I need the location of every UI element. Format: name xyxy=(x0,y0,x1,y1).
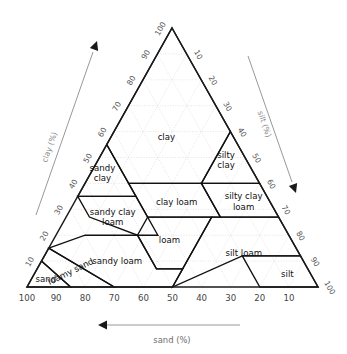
silt-tick-20: 20 xyxy=(207,74,220,87)
clay-tick-10: 10 xyxy=(24,255,37,268)
clay-axis-arrow-head xyxy=(90,40,101,51)
sand-tick-70: 70 xyxy=(109,293,120,303)
sand-tick-50: 50 xyxy=(167,293,178,303)
silt-tick-50: 50 xyxy=(250,152,263,165)
clay-tick-20: 20 xyxy=(38,229,51,242)
sand-tick-30: 30 xyxy=(225,293,236,303)
clay-tick-80: 80 xyxy=(125,74,138,87)
clay-tick-40: 40 xyxy=(67,178,80,191)
class-label-silt: silt xyxy=(281,269,294,279)
silt-tick-90: 90 xyxy=(309,255,322,268)
silt-tick-80: 80 xyxy=(294,230,307,243)
class-label-silty-clay: siltyclay xyxy=(217,150,235,170)
class-label-silt-loam: silt loam xyxy=(225,248,262,258)
clay-tick-60: 60 xyxy=(96,126,109,139)
clay-tick-70: 70 xyxy=(111,100,124,113)
class-label-clay-loam: clay loam xyxy=(156,197,197,207)
ternary-diagram-svg: 1020304050607080901001020304050607080901… xyxy=(0,0,347,354)
silt-tick-40: 40 xyxy=(236,126,249,139)
silt-axis-arrow-head xyxy=(289,183,300,194)
sand-tick-90: 90 xyxy=(51,293,62,303)
clay-tick-100: 100 xyxy=(153,20,168,37)
silt-tick-10: 10 xyxy=(192,48,205,61)
sand-tick-10: 10 xyxy=(283,293,294,303)
class-region-fills xyxy=(27,28,318,287)
clay-axis-title: clay (%) xyxy=(40,131,59,164)
clay-tick-90: 90 xyxy=(140,48,153,61)
class-label-sandy-loam: sandy loam xyxy=(92,256,142,266)
sand-tick-80: 80 xyxy=(80,293,91,303)
class-label-sand: sand xyxy=(36,274,57,284)
class-region-clay xyxy=(107,28,231,183)
sand-tick-40: 40 xyxy=(196,293,207,303)
silt-tick-60: 60 xyxy=(265,178,278,191)
sand-tick-20: 20 xyxy=(254,293,265,303)
silt-tick-30: 30 xyxy=(221,100,234,113)
sand-axis-title: sand (%) xyxy=(153,335,190,345)
soil-texture-triangle-figure: 1020304050607080901001020304050607080901… xyxy=(0,0,347,354)
sand-tick-100: 100 xyxy=(19,293,35,303)
silt-tick-100: 100 xyxy=(322,279,337,296)
silt-axis-title: silt (%) xyxy=(256,110,274,139)
clay-tick-30: 30 xyxy=(53,203,66,216)
sand-tick-60: 60 xyxy=(138,293,149,303)
class-label-clay: clay xyxy=(158,132,175,142)
class-label-loam: loam xyxy=(159,235,180,245)
silt-tick-70: 70 xyxy=(280,204,293,217)
sand-axis-arrow-head xyxy=(98,321,107,330)
